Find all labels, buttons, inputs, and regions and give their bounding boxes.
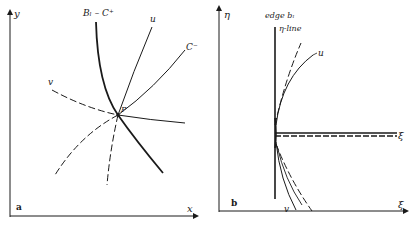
curve-label-bl-cplus: Bₗ – C⁺ [82,8,114,18]
point-label-p: P [120,105,127,114]
xi-line-label: ξ [398,130,404,141]
panel-label-a: a [16,202,22,212]
point-p [116,113,120,117]
curve-label-v-b: v [284,204,289,214]
curve-cminus-solid [118,50,185,115]
curve-label-u-b: u [318,48,324,58]
panel-a: y x Bₗ – C⁺ u C⁻ v P a [10,8,198,217]
eta-line-label: η-line [279,24,302,33]
curve-u-dashed [107,115,118,185]
curve-bl-cplus [96,22,163,173]
curve-u-b-leader [313,53,317,55]
curve-label-v-a: v [48,77,53,87]
xi-axis-label: ξ [398,199,404,210]
edge-label: edge bₗ [265,11,294,20]
curve-label-cminus: C⁻ [186,42,198,52]
panel-b: η ξ edge bₗ η-line u v ξ b [219,8,406,214]
figure-canvas: y x Bₗ – C⁺ u C⁻ v P a η ξ edge bₗ η-lin… [0,0,415,226]
eta-axis-label: η [224,9,230,20]
curve-u-b-solid [276,55,313,125]
curve-v-solid [118,115,185,123]
curve-v-b-dashed [276,144,312,211]
panel-label-b: b [231,198,237,208]
curve-label-u-a: u [150,14,156,24]
y-axis-label-a: y [13,8,20,19]
x-axis-label-a: x [187,203,193,214]
